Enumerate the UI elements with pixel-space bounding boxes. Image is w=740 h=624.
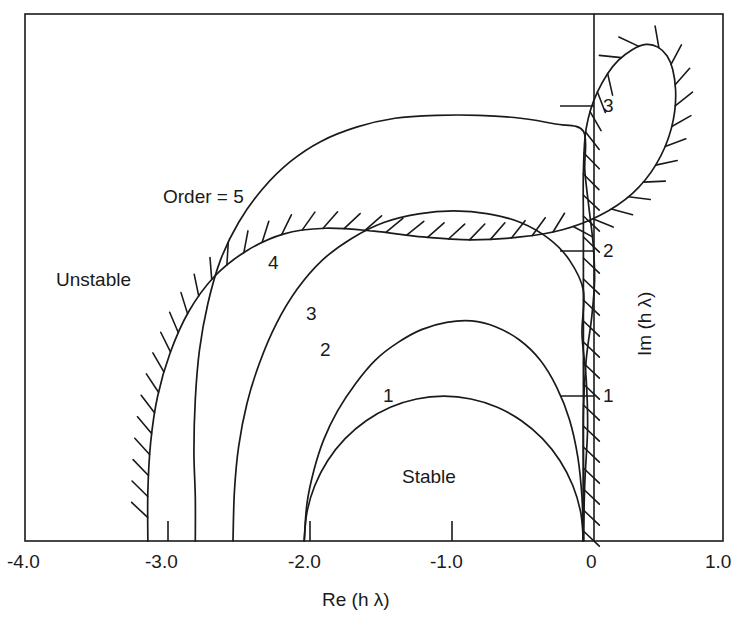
x-tick-label--2: -2.0 [288,551,321,573]
y-tick-label-1: 1 [603,385,614,407]
x-axis-title: Re (h λ) [322,589,390,611]
curve-label-order-5: Order = 5 [163,186,244,208]
y-tick-label-3: 3 [603,95,614,117]
x-tick-label--1: -1.0 [430,551,463,573]
curve-label-order-2: 2 [320,339,331,361]
plot-canvas [0,0,740,624]
stable-region-label: Stable [402,466,456,488]
curve-label-order-4: 4 [268,252,279,274]
x-tick-label-1: 1.0 [705,551,731,573]
x-tick-label-0: 0 [586,551,597,573]
curve-label-order-1: 1 [383,385,394,407]
y-axis-title: Im (h λ) [634,292,656,356]
stability-region-figure: -4.0 -3.0 -2.0 -1.0 0 1.0 Re (h λ) Im (h… [0,0,740,624]
x-tick-label--3: -3.0 [145,551,178,573]
unstable-region-label: Unstable [56,269,131,291]
x-tick-label--4: -4.0 [7,551,40,573]
y-tick-label-2: 2 [603,240,614,262]
curve-label-order-3: 3 [306,303,317,325]
hatch-tick [643,181,665,182]
